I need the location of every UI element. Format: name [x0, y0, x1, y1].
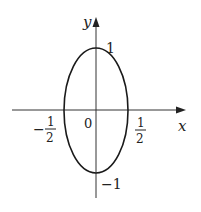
- x-axis-arrow-icon: [176, 107, 186, 114]
- x-tick-neg-half-sign: −: [33, 121, 45, 137]
- x-tick-neg-half-num: 1: [47, 115, 55, 129]
- y-tick-1: 1: [106, 40, 115, 56]
- y-tick-neg1: −1: [101, 176, 122, 192]
- x-tick-half-den: 2: [136, 132, 144, 146]
- y-axis-label: y: [82, 13, 92, 31]
- origin-label: 0: [84, 116, 92, 131]
- x-tick-neg-half-den: 2: [46, 131, 54, 145]
- ellipse-figure: y x 0 1 −1 − 1 2 1 2: [0, 0, 201, 212]
- x-tick-half-num: 1: [137, 116, 145, 130]
- x-axis-label: x: [178, 117, 187, 135]
- y-axis-arrow-icon: [93, 17, 100, 27]
